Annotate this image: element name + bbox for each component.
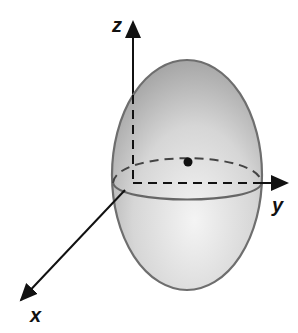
x-axis-label: x bbox=[29, 304, 42, 326]
ellipsoid bbox=[112, 60, 262, 290]
center-point bbox=[184, 158, 193, 167]
y-axis-label: y bbox=[271, 194, 284, 216]
z-axis-label: z bbox=[111, 14, 122, 36]
ellipsoid-diagram: z y x bbox=[0, 0, 298, 333]
x-axis bbox=[21, 190, 125, 300]
